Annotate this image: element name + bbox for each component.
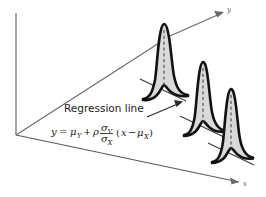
figure-canvas: x y [0, 0, 266, 197]
formula-close-paren: ) [149, 127, 153, 138]
x-axis-label: x [243, 180, 247, 188]
formula-rho: ρ [92, 126, 99, 137]
formula-open-paren: ( [116, 127, 120, 138]
figure-background [0, 0, 266, 197]
formula-mu-y: μ [70, 126, 77, 137]
regression-line-figure: x y [0, 0, 266, 197]
formula-lhs: y [50, 126, 57, 137]
formula-mu-x: μ [137, 127, 144, 138]
formula-plus: + [83, 126, 91, 137]
regression-line-label: Regression line [64, 102, 144, 114]
formula-minus: − [128, 127, 136, 138]
formula-x-var: x [121, 127, 127, 138]
formula-equals: = [59, 126, 67, 137]
